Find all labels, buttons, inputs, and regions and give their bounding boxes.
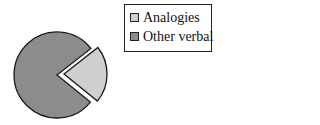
legend-item-analogies: Analogies: [130, 8, 211, 27]
legend-item-other-verbal: Other verbal: [130, 27, 211, 46]
legend-swatch-analogies: [130, 13, 139, 22]
legend: Analogies Other verbal: [124, 4, 212, 52]
legend-label: Other verbal: [143, 29, 213, 45]
legend-swatch-other-verbal: [130, 32, 139, 41]
legend-label: Analogies: [143, 10, 200, 26]
